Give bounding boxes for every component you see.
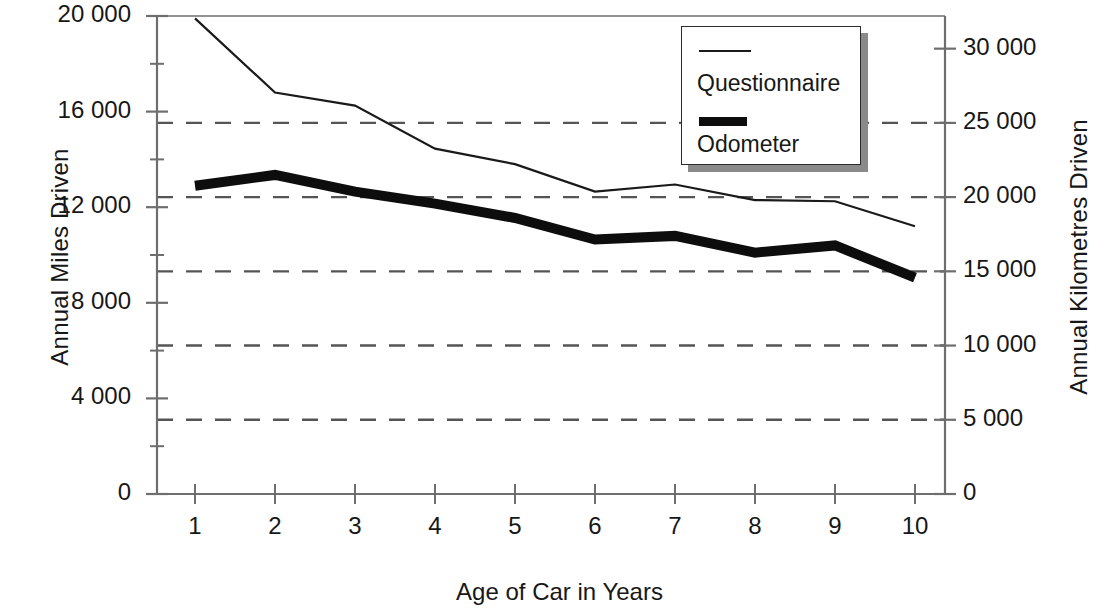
y-tick-label-left: 4 000 (0, 384, 131, 408)
y-tick-label-left: 8 000 (0, 289, 131, 313)
chart-container: Annual Miles Driven Annual Kilometres Dr… (0, 0, 1119, 613)
y-tick-label-right: 0 (963, 480, 976, 504)
y-tick-label-left: 20 000 (0, 2, 131, 26)
x-tick-label: 6 (565, 514, 625, 538)
y-tick-label-left: 0 (0, 480, 131, 504)
x-tick-label: 1 (165, 514, 225, 538)
legend-swatch-odometer (699, 117, 747, 126)
legend-label-odometer: Odometer (697, 131, 799, 158)
series-line-odometer (195, 175, 915, 278)
y-tick-label-left: 16 000 (0, 98, 131, 122)
x-tick-label: 3 (325, 514, 385, 538)
legend-label-questionnaire: Questionnaire (697, 70, 840, 97)
x-tick-label: 8 (725, 514, 785, 538)
y-tick-label-right: 20 000 (963, 183, 1036, 207)
x-tick-label: 5 (485, 514, 545, 538)
legend: Questionnaire Odometer (681, 26, 861, 165)
y-tick-label-right: 10 000 (963, 332, 1036, 356)
y-tick-label-right: 15 000 (963, 257, 1036, 281)
x-tick-label: 10 (885, 514, 945, 538)
x-tick-label: 9 (805, 514, 865, 538)
y-tick-label-right: 5 000 (963, 406, 1023, 430)
y-tick-label-left: 12 000 (0, 193, 131, 217)
y-tick-label-right: 25 000 (963, 109, 1036, 133)
x-tick-label: 4 (405, 514, 465, 538)
x-tick-label: 2 (245, 514, 305, 538)
x-tick-label: 7 (645, 514, 705, 538)
legend-swatch-questionnaire (699, 50, 751, 52)
y-tick-label-right: 30 000 (963, 35, 1036, 59)
y-axis-title-right: Annual Kilometres Driven (1065, 47, 1093, 467)
x-axis-title: Age of Car in Years (0, 578, 1119, 606)
